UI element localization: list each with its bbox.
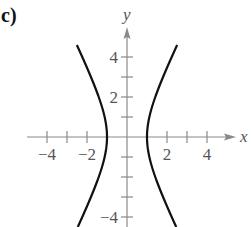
hyperbola-plot: 24−4−224−4xy xyxy=(0,0,252,227)
x-tick-label: 2 xyxy=(163,145,172,164)
x-axis-label: x xyxy=(239,127,248,146)
x-tick-label: −2 xyxy=(78,145,96,164)
right-branch-curve xyxy=(147,45,177,227)
left-branch-curve xyxy=(77,45,107,227)
y-axis-label: y xyxy=(121,5,131,24)
y-tick-label: −4 xyxy=(100,208,119,227)
y-tick-label: 2 xyxy=(110,88,119,107)
y-tick-label: 4 xyxy=(110,48,119,67)
x-tick-label: 4 xyxy=(203,145,212,164)
x-tick-label: −4 xyxy=(38,145,57,164)
